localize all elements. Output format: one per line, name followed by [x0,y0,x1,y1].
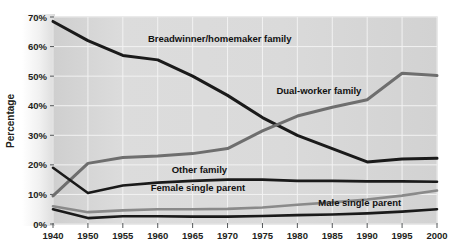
x-tick-label: 1990 [357,230,378,241]
series-label-3: Female single parent [151,182,246,193]
line-chart-canvas: 0%10%20%30%40%50%60%70% 1940195019551960… [0,0,454,246]
y-axis-title: Percentage [5,94,16,148]
x-tick-label: 1970 [217,230,238,241]
y-tick-label: 0% [33,219,47,230]
series-label-1: Dual-worker family [276,85,362,96]
x-tick-label: 1950 [77,230,98,241]
chart-figure: 0%10%20%30%40%50%60%70% 1940195019551960… [0,0,454,246]
x-tick-label: 1980 [287,230,308,241]
y-tick-label: 50% [28,71,48,82]
series-label-2: Other family [172,164,228,175]
x-tick-label: 1975 [252,230,274,241]
x-tick-label: 1995 [392,230,414,241]
x-tick-label: 1940 [42,230,63,241]
series-label-0: Breadwinner/homemaker family [148,33,292,44]
x-tick-label: 1960 [147,230,168,241]
x-tick-label: 1985 [322,230,344,241]
series-label-4: Male single parent [318,197,402,208]
y-tick-label: 60% [28,41,48,52]
y-tick-label: 40% [28,100,48,111]
y-tick-label: 30% [28,130,48,141]
x-tick-label: 1955 [112,230,134,241]
y-tick-label: 70% [28,12,48,23]
y-tick-label: 20% [28,159,48,170]
x-tick-label: 2000 [426,230,447,241]
x-tick-label: 1965 [182,230,204,241]
y-tick-label: 10% [28,189,48,200]
